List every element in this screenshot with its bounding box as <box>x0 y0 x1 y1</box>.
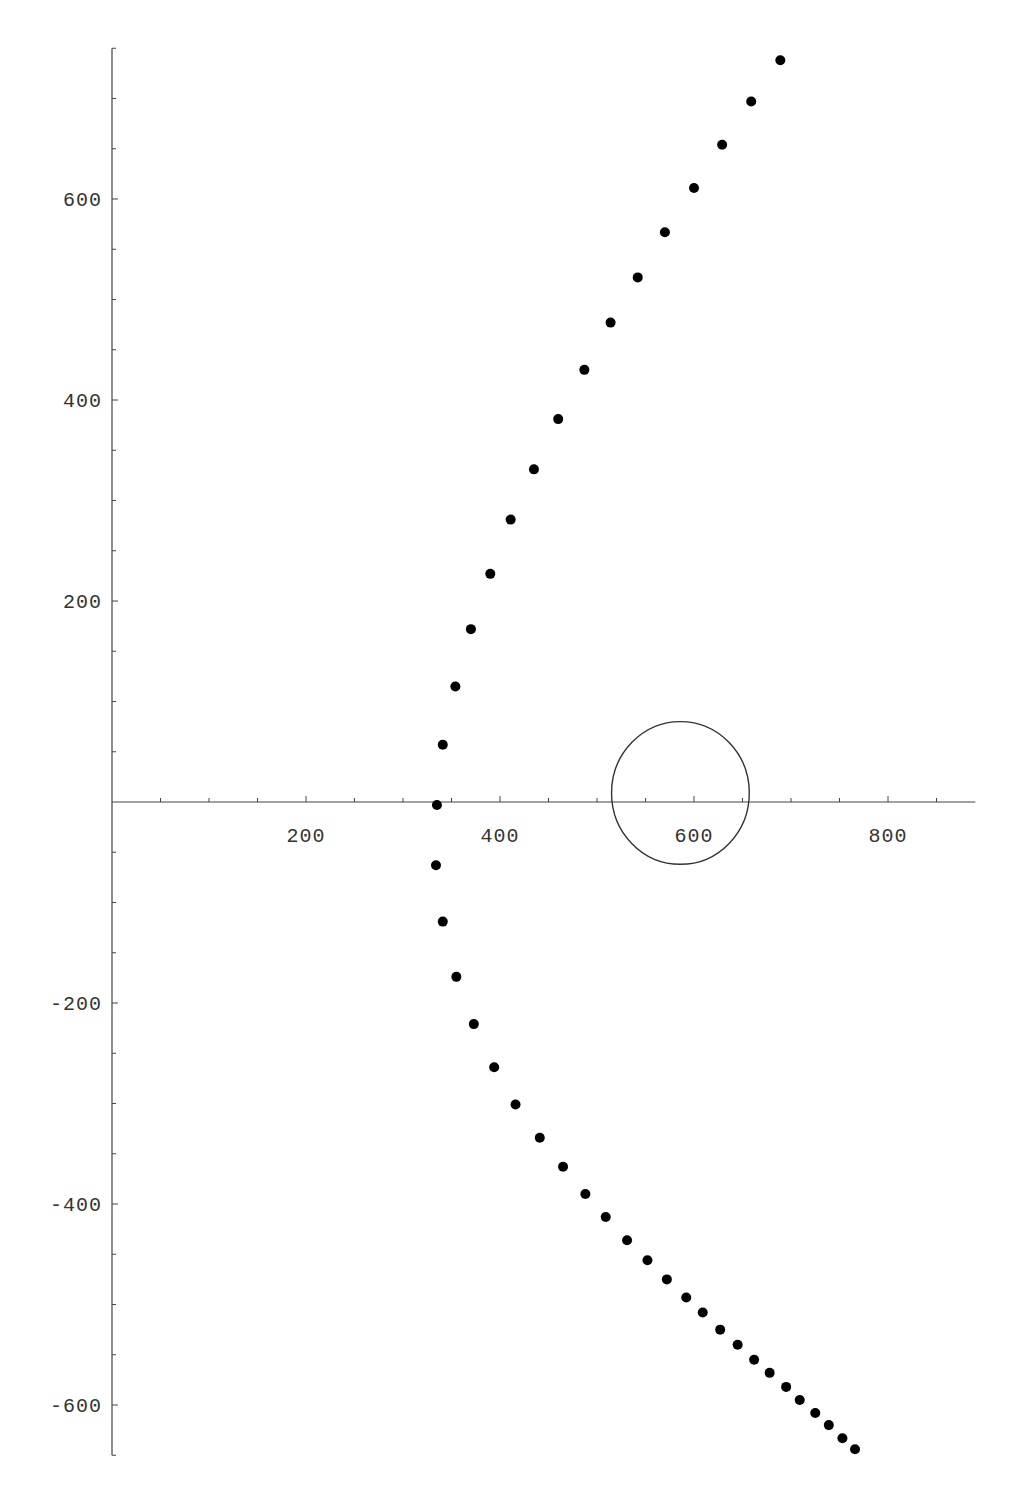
data-point <box>438 740 448 750</box>
data-point <box>781 1382 791 1392</box>
data-point <box>601 1212 611 1222</box>
data-point <box>775 55 785 65</box>
data-point <box>432 800 442 810</box>
y-tick-label: 600 <box>63 189 102 212</box>
data-point <box>469 1019 479 1029</box>
data-point <box>715 1325 725 1335</box>
data-point <box>642 1255 652 1265</box>
data-point <box>506 515 516 525</box>
x-tick-label: 600 <box>674 825 713 848</box>
y-tick-label: -600 <box>50 1395 102 1418</box>
data-point <box>689 183 699 193</box>
data-point <box>765 1368 775 1378</box>
data-point <box>485 569 495 579</box>
y-tick-label: 400 <box>63 390 102 413</box>
data-point <box>681 1292 691 1302</box>
data-points <box>431 55 860 1454</box>
data-point <box>662 1274 672 1284</box>
x-tick-label: 400 <box>480 825 519 848</box>
x-tick-label: 800 <box>868 825 907 848</box>
data-point <box>824 1420 834 1430</box>
data-point <box>579 365 589 375</box>
data-point <box>850 1444 860 1454</box>
x-tick-label: 200 <box>286 825 325 848</box>
data-point <box>633 272 643 282</box>
y-tick-label: 200 <box>63 591 102 614</box>
data-point <box>698 1308 708 1318</box>
y-tick-label: -400 <box>50 1194 102 1217</box>
tick-labels: 200400600800600400200-200-400-600 <box>50 189 908 1418</box>
axes <box>112 48 975 1455</box>
data-point <box>810 1408 820 1418</box>
data-point <box>466 624 476 634</box>
data-point <box>795 1395 805 1405</box>
data-point <box>606 318 616 328</box>
data-point <box>489 1062 499 1072</box>
data-point <box>553 414 563 424</box>
data-point <box>511 1100 521 1110</box>
data-point <box>558 1162 568 1172</box>
data-point <box>580 1189 590 1199</box>
scatter-plot: 200400600800600400200-200-400-600 <box>0 0 1016 1504</box>
data-point <box>733 1340 743 1350</box>
data-point <box>622 1235 632 1245</box>
y-tick-label: -200 <box>50 993 102 1016</box>
axis-ticks <box>112 48 937 1455</box>
data-point <box>451 972 461 982</box>
data-point <box>450 681 460 691</box>
data-point <box>837 1433 847 1443</box>
data-point <box>529 464 539 474</box>
data-point <box>438 917 448 927</box>
data-point <box>717 140 727 150</box>
data-point <box>746 97 756 107</box>
data-point <box>431 860 441 870</box>
data-point <box>535 1133 545 1143</box>
data-point <box>749 1355 759 1365</box>
data-point <box>660 227 670 237</box>
